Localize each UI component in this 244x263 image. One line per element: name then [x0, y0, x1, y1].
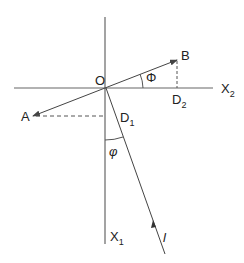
label-d2: D2 [172, 92, 186, 110]
angle-arc-phi-upper [140, 74, 143, 88]
label-a: A [21, 109, 30, 124]
label-x1: X1 [110, 229, 124, 247]
label-phi-upper: Φ [146, 70, 156, 85]
label-x2: X2 [221, 81, 235, 99]
angle-arc-phi-lower [105, 137, 123, 140]
label-b: B [181, 48, 190, 63]
vector-oa [33, 88, 105, 116]
vector-diagram: O B A Φ φ X2 D2 D1 X1 l [0, 0, 244, 263]
vector-ob [105, 60, 177, 88]
label-phi-lower: φ [109, 144, 118, 159]
line-l-arrow-icon [151, 220, 156, 228]
label-origin: O [95, 73, 105, 88]
label-l: l [163, 230, 167, 245]
label-d1: D1 [120, 110, 134, 128]
